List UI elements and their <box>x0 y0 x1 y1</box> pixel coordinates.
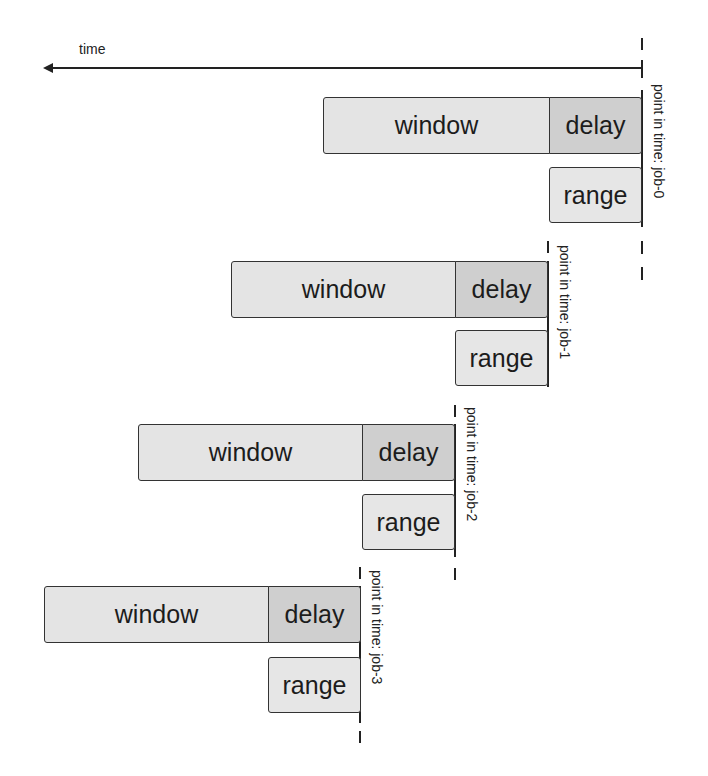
window-box: window <box>231 261 456 318</box>
point-in-time-dash <box>641 60 643 78</box>
point-in-time-label: point in time: job-0 <box>651 84 667 198</box>
point-in-time-label: point in time: job-1 <box>557 245 573 359</box>
delay-box: delay <box>362 424 455 481</box>
delay-box: delay <box>268 586 361 643</box>
window-box: window <box>44 586 269 643</box>
time-axis-label: time <box>79 41 105 57</box>
point-in-time-dash <box>641 241 643 254</box>
point-in-time-dash <box>359 731 361 743</box>
point-in-time-label: point in time: job-2 <box>464 407 480 521</box>
range-box: range <box>362 494 455 550</box>
delay-box: delay <box>549 97 642 154</box>
point-in-time-dash <box>641 267 643 280</box>
range-box: range <box>549 167 642 223</box>
point-in-time-label: point in time: job-3 <box>369 570 385 684</box>
point-in-time-dash <box>547 241 549 253</box>
point-in-time-dash <box>454 405 456 417</box>
window-box: window <box>323 97 550 154</box>
window-box: window <box>138 424 363 481</box>
time-axis-line <box>48 67 642 69</box>
point-in-time-dash <box>359 567 361 579</box>
point-in-time-dash <box>641 38 643 50</box>
delay-box: delay <box>455 261 548 318</box>
range-box: range <box>455 330 548 386</box>
point-in-time-dash <box>454 568 456 580</box>
range-box: range <box>268 657 361 713</box>
